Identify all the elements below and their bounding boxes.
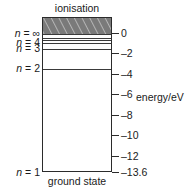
ionisation-hatched-band bbox=[43, 18, 111, 34]
y-axis-tick bbox=[112, 172, 119, 173]
y-axis-tick bbox=[112, 53, 119, 54]
level-label-n-1: n = 1 bbox=[0, 166, 40, 178]
hatch-pattern-icon bbox=[43, 18, 111, 34]
y-axis-tick-label: –6 bbox=[121, 88, 133, 100]
y-axis-tick-label: –8 bbox=[121, 109, 133, 121]
energy-level-line bbox=[43, 69, 111, 70]
y-axis-tick bbox=[112, 135, 119, 136]
ionisation-caption: ionisation bbox=[42, 3, 112, 14]
axis-title: energy/eV bbox=[136, 92, 184, 103]
energy-level-diagram: ionisation 0–2–4–6–8–10–12–13.6 n = ∞n =… bbox=[0, 0, 195, 196]
y-axis-tick bbox=[112, 74, 119, 75]
y-axis-tick bbox=[112, 115, 119, 116]
energy-level-line bbox=[43, 43, 111, 44]
level-label-n-2: n = 2 bbox=[0, 62, 40, 74]
y-axis-tick-label: –10 bbox=[121, 129, 139, 141]
energy-level-line bbox=[43, 40, 111, 41]
y-axis-tick-label: 0 bbox=[121, 27, 127, 39]
y-axis-tick bbox=[112, 94, 119, 95]
y-axis-tick-label: –4 bbox=[121, 68, 133, 80]
y-axis-tick-label: –12 bbox=[121, 150, 139, 162]
energy-level-box bbox=[42, 17, 112, 172]
y-axis-tick bbox=[112, 156, 119, 157]
energy-level-line bbox=[43, 49, 111, 50]
y-axis-tick bbox=[112, 33, 119, 34]
ground-state-caption: ground state bbox=[36, 176, 118, 187]
y-axis-tick-label: –2 bbox=[121, 47, 133, 59]
energy-level-line bbox=[43, 34, 111, 35]
level-label-n-3: n = 3 bbox=[0, 42, 40, 54]
y-axis-tick-label: –13.6 bbox=[121, 166, 147, 178]
